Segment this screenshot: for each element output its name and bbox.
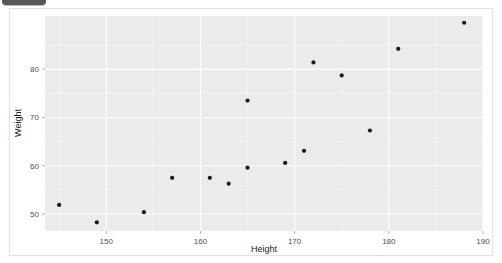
plot-panel [45,16,483,231]
data-point [283,161,287,165]
plot-card: 150160170180190 50607080 Height Weight [9,8,493,256]
y-tick-label: 50 [30,210,39,219]
panel-background [45,16,483,231]
x-axis-title: Height [251,244,278,254]
x-tick-label: 190 [476,237,490,246]
toolbar-chip[interactable] [2,0,46,5]
data-point [396,47,400,51]
data-point [302,149,306,153]
y-tick-label: 70 [30,113,39,122]
x-tick-label: 170 [288,237,302,246]
data-point [142,210,146,214]
data-point [340,73,344,77]
data-point [311,60,315,64]
data-point [95,220,99,224]
x-axis: 150160170180190 [100,231,491,246]
y-tick-label: 60 [30,162,39,171]
data-point [57,203,61,207]
y-axis: 50607080 [30,65,45,219]
x-tick-label: 150 [100,237,114,246]
data-point [227,182,231,186]
x-tick-label: 180 [382,237,396,246]
y-axis-title: Weight [13,109,23,137]
y-tick-label: 80 [30,65,39,74]
scatter-plot: 150160170180190 50607080 Height Weight [10,9,494,257]
data-point [170,176,174,180]
data-point [368,128,372,132]
data-point [245,166,249,170]
x-tick-label: 160 [194,237,208,246]
data-point [462,21,466,25]
data-point [245,98,249,102]
data-point [208,176,212,180]
